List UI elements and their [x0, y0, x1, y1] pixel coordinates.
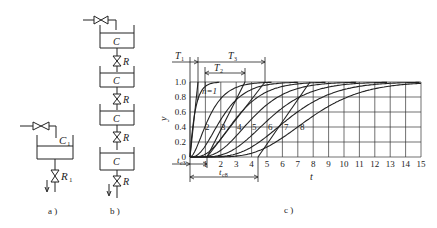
x-tick-label: 12: [370, 159, 379, 169]
T2-sub: 2: [220, 68, 223, 74]
x-tick-label: 14: [401, 159, 411, 169]
tank-capacity-sub: 1: [67, 140, 71, 148]
series-label: 3: [221, 122, 226, 132]
tank-capacity-label: C: [59, 134, 67, 146]
y-tick-label: 1.0: [175, 77, 187, 87]
x-tick-label: 11: [355, 159, 364, 169]
valve-label-4: R: [122, 176, 129, 187]
response-curve-n7: [190, 82, 420, 157]
y-tick-label: 0.6: [175, 107, 187, 117]
chart-grid: [190, 82, 421, 157]
valve-resistance-sub: 1: [69, 176, 73, 184]
response-chart: 00.20.40.60.81.0123456789101112131415n=1…: [175, 77, 426, 169]
tank-label-3: C: [113, 113, 120, 124]
panel-a-caption: a ): [48, 206, 57, 216]
valve-label-2: R: [122, 94, 129, 105]
valve-label-1: R: [122, 56, 129, 67]
y-tick-label: 0.8: [175, 92, 187, 102]
outlet-valve-icon: [51, 170, 59, 182]
x-tick-label: 10: [340, 159, 350, 169]
series-label: n=1: [202, 86, 217, 96]
series-label: 7: [284, 122, 289, 132]
figure-canvas: C 1 R 1 a ) C R C R C R C R b ) 00.20.40…: [0, 0, 437, 228]
series-label: 2: [205, 122, 210, 132]
T1-sub: 1: [181, 56, 184, 62]
y-tick-label: 0.4: [175, 122, 187, 132]
x-tick-label: 5: [265, 159, 270, 169]
panel-b-diagram: [83, 16, 134, 198]
tc3-sub: c3: [180, 160, 186, 166]
valve-resistance-label: R: [60, 170, 68, 182]
figure: C 1 R 1 a ) C R C R C R C R b ) 00.20.40…: [0, 0, 437, 228]
x-tick-label: 13: [386, 159, 396, 169]
x-tick-label: 15: [417, 159, 427, 169]
tank-label-1: C: [113, 36, 120, 47]
valve-label-3: R: [122, 132, 129, 143]
tank-label-4: C: [113, 156, 120, 167]
x-tick-label: 3: [234, 159, 239, 169]
panel-b-caption: b ): [110, 206, 120, 216]
x-tick-label: 4: [249, 159, 254, 169]
tank-label-2: C: [113, 75, 120, 86]
x-tick-label: 9: [326, 159, 331, 169]
x-axis-label: t: [310, 171, 313, 182]
x-tick-label: 6: [280, 159, 285, 169]
series-label: 8: [300, 122, 305, 132]
series-label: 5: [252, 122, 257, 132]
chart-curves: [190, 82, 421, 157]
series-label: 4: [237, 122, 242, 132]
inlet-valve-icon: [94, 16, 108, 24]
inlet-valve-icon: [33, 122, 49, 130]
x-tick-label: 7: [296, 159, 301, 169]
tc8-sub: c8: [222, 172, 228, 178]
y-tick-label: 0.2: [175, 137, 186, 147]
x-tick-label: 8: [311, 159, 316, 169]
y-axis-label: y: [158, 116, 169, 122]
T3-sub: 3: [234, 56, 237, 62]
series-label: 6: [268, 122, 273, 132]
panel-c-caption: c ): [284, 205, 293, 215]
